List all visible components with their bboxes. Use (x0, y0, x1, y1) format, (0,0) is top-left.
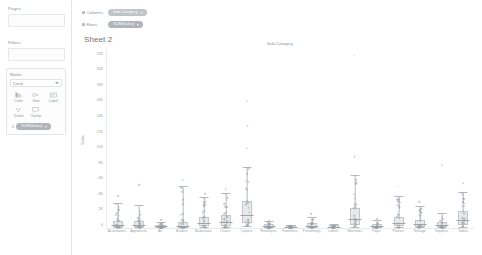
mark-dot[interactable] (397, 225, 399, 227)
mark-dot[interactable] (354, 194, 356, 196)
mark-dot[interactable] (139, 211, 141, 213)
rows-shelf[interactable]: Rows SUM(Sales) (82, 20, 472, 29)
mark-dot[interactable] (462, 194, 464, 196)
plot-area[interactable] (106, 50, 474, 229)
category-column[interactable] (237, 50, 259, 228)
mark-dot[interactable] (311, 222, 313, 224)
mark-dot[interactable] (396, 216, 398, 218)
mark-dot[interactable] (355, 225, 357, 227)
outlier-dot[interactable] (182, 179, 184, 181)
mark-dot[interactable] (226, 226, 228, 228)
outlier-dot[interactable] (204, 193, 206, 195)
mark-dot[interactable] (202, 213, 204, 215)
category-column[interactable] (345, 50, 367, 228)
category-column[interactable] (172, 50, 194, 228)
outlier-dot[interactable] (419, 201, 421, 203)
pages-drop-well[interactable] (8, 14, 65, 27)
mark-dot[interactable] (226, 212, 228, 214)
mark-dot[interactable] (462, 224, 464, 226)
mark-dot[interactable] (140, 219, 142, 221)
outlier-dot[interactable] (160, 219, 162, 221)
outlier-dot[interactable] (397, 185, 399, 187)
mark-dot[interactable] (118, 210, 120, 212)
mark-dot[interactable] (462, 206, 464, 208)
mark-dot[interactable] (225, 193, 227, 195)
mark-dot[interactable] (119, 220, 121, 222)
mark-dot[interactable] (356, 182, 358, 184)
mark-dot[interactable] (115, 203, 117, 205)
mark-dot[interactable] (420, 208, 422, 210)
mark-dot[interactable] (420, 212, 422, 214)
marks-field-pill[interactable]: SUM(Sales) (16, 123, 51, 130)
mark-dot[interactable] (140, 214, 142, 216)
mark-dot[interactable] (202, 217, 204, 219)
mark-dot[interactable] (461, 192, 463, 194)
mark-dot[interactable] (183, 199, 185, 201)
mark-dot[interactable] (377, 226, 379, 228)
rows-pill[interactable]: SUM(Sales) (108, 21, 143, 28)
mark-dot[interactable] (226, 220, 228, 222)
mark-dot[interactable] (398, 199, 400, 201)
category-column[interactable] (150, 50, 172, 228)
mark-dot[interactable] (182, 213, 184, 215)
mark-dot[interactable] (246, 203, 248, 205)
mark-dot[interactable] (247, 224, 249, 226)
category-column[interactable] (366, 50, 388, 228)
mark-dot[interactable] (356, 219, 358, 221)
mark-dot[interactable] (399, 224, 401, 226)
marks-button-size[interactable]: Size (27, 90, 44, 105)
mark-dot[interactable] (419, 209, 421, 211)
mark-dot[interactable] (245, 226, 247, 228)
mark-dot[interactable] (182, 220, 184, 222)
mark-dot[interactable] (462, 201, 464, 203)
mark-dot[interactable] (356, 207, 358, 209)
outlier-dot[interactable] (247, 100, 249, 102)
mark-dot[interactable] (397, 210, 399, 212)
mark-dot[interactable] (247, 167, 249, 169)
outlier-dot[interactable] (441, 165, 443, 167)
mark-dot[interactable] (247, 173, 249, 175)
mark-dot[interactable] (137, 224, 139, 226)
mark-dot[interactable] (226, 217, 228, 219)
mark-dot[interactable] (313, 226, 315, 228)
mark-dot[interactable] (160, 223, 162, 225)
mark-dot[interactable] (205, 209, 207, 211)
category-column[interactable] (129, 50, 151, 228)
mark-dot[interactable] (398, 214, 400, 216)
category-column[interactable] (453, 50, 475, 228)
mark-dot[interactable] (247, 190, 249, 192)
mark-dot[interactable] (420, 226, 422, 228)
mark-dot[interactable] (353, 215, 355, 217)
outlier-dot[interactable] (225, 188, 227, 190)
mark-dot[interactable] (223, 203, 225, 205)
mark-dot[interactable] (463, 198, 465, 200)
category-column[interactable] (258, 50, 280, 228)
mark-dot[interactable] (248, 211, 250, 213)
category-column[interactable] (388, 50, 410, 228)
mark-dot[interactable] (442, 219, 444, 221)
mark-dot[interactable] (226, 197, 228, 199)
mark-dot[interactable] (420, 215, 422, 217)
mark-dot[interactable] (204, 226, 206, 228)
mark-dot[interactable] (312, 219, 314, 221)
columns-pill[interactable]: Sub-Category (108, 9, 147, 16)
mark-dot[interactable] (463, 213, 465, 215)
mark-dot[interactable] (442, 222, 444, 224)
mark-dot[interactable] (399, 217, 401, 219)
mark-dot[interactable] (116, 212, 118, 214)
mark-dot[interactable] (248, 207, 250, 209)
outlier-dot[interactable] (354, 55, 356, 57)
mark-dot[interactable] (332, 226, 334, 228)
mark-dot[interactable] (399, 226, 401, 228)
mark-dot[interactable] (204, 216, 206, 218)
category-column[interactable] (280, 50, 302, 228)
mark-dot[interactable] (398, 207, 400, 209)
mark-type-dropdown[interactable]: Circle (10, 79, 62, 87)
marks-button-color[interactable]: Color (10, 90, 27, 105)
category-column[interactable] (107, 50, 129, 228)
mark-dot[interactable] (355, 179, 357, 181)
mark-dot[interactable] (118, 225, 120, 227)
mark-dot[interactable] (356, 204, 358, 206)
mark-dot[interactable] (183, 204, 185, 206)
mark-dot[interactable] (291, 226, 293, 228)
